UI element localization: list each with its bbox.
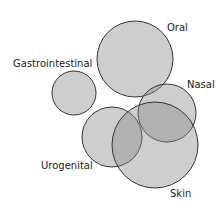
set-circle-gastrointestinal [52,71,96,115]
set-label-oral: Oral [167,22,188,33]
set-label-nasal: Nasal [187,79,215,90]
set-label-skin: Skin [170,188,191,199]
set-label-urogenital: Urogenital [41,160,93,171]
set-label-gastrointestinal: Gastrointestinal [13,58,92,69]
set-circle-skin [112,102,198,188]
euler-diagram: OralGastrointestinalNasalUrogenitalSkin [0,0,223,209]
